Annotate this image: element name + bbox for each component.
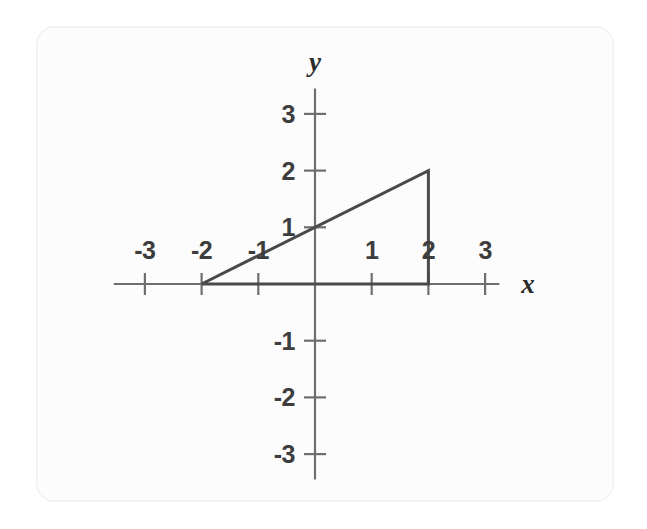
x-tick-label: 2	[422, 238, 435, 263]
x-tick-label: -2	[191, 238, 212, 263]
figure-root: -3-2-1123-3-2-1123xy	[0, 0, 647, 529]
x-axis-label: x	[521, 271, 535, 298]
y-tick-label: -2	[274, 385, 295, 410]
y-tick-label: -3	[274, 442, 295, 467]
y-tick-label: -1	[274, 328, 295, 353]
x-tick-label: 1	[365, 238, 378, 263]
x-tick-label: -3	[134, 238, 155, 263]
x-tick-label: 3	[478, 238, 491, 263]
y-tick-label: 3	[282, 101, 295, 126]
y-tick-label: 2	[282, 158, 295, 183]
y-axis-label: y	[309, 49, 321, 76]
x-tick-label: -1	[248, 238, 269, 263]
coordinate-plane-svg	[0, 0, 647, 529]
y-tick-label: 1	[282, 215, 295, 240]
